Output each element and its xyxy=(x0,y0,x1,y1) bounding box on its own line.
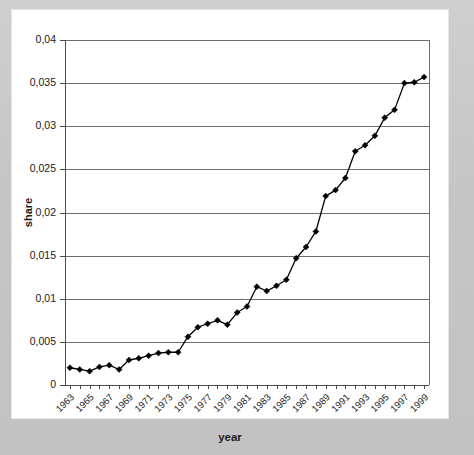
x-tick-label: 1981 xyxy=(231,391,254,414)
x-tick-label: 1967 xyxy=(93,391,116,414)
x-tick-label: 1995 xyxy=(368,391,391,414)
data-point-marker xyxy=(421,74,427,80)
data-point-marker xyxy=(214,317,220,323)
series-line-share xyxy=(70,77,424,371)
x-tick-label: 1979 xyxy=(211,391,234,414)
data-point-marker xyxy=(205,321,211,327)
x-tick-label: 1985 xyxy=(270,391,293,414)
x-tick-label: 1991 xyxy=(329,391,352,414)
y-tick-label: 0,015 xyxy=(30,249,56,261)
gridlines-group xyxy=(65,41,429,343)
data-point-marker xyxy=(283,277,289,283)
x-tick-label: 1969 xyxy=(112,391,135,414)
data-point-marker xyxy=(136,355,142,361)
line-chart: 00,0050,010,0150,020,0250,030,0350,04 19… xyxy=(12,10,448,418)
data-point-marker xyxy=(165,349,171,355)
data-point-marker xyxy=(254,284,260,290)
y-tick-label: 0 xyxy=(50,378,56,390)
x-tick-label: 1965 xyxy=(73,391,96,414)
x-axis-title-band: year xyxy=(12,418,448,455)
x-tick-label: 1971 xyxy=(132,391,155,414)
data-point-marker xyxy=(313,228,319,234)
markers-group xyxy=(67,74,427,374)
y-axis-title-group: share xyxy=(22,198,34,227)
data-point-marker xyxy=(155,350,161,356)
x-tick-labels-group: 1963196519671969197119731975197719791981… xyxy=(53,391,430,414)
data-point-marker xyxy=(106,362,112,368)
data-point-marker xyxy=(77,366,83,372)
y-tick-label: 0,02 xyxy=(36,206,57,218)
x-tick-label: 1963 xyxy=(53,391,76,414)
y-tick-label: 0,04 xyxy=(36,33,57,45)
data-point-marker xyxy=(87,368,93,374)
x-tick-label: 1993 xyxy=(349,391,372,414)
series-group xyxy=(70,77,424,371)
axis-lines-group xyxy=(65,40,430,386)
data-point-marker xyxy=(146,353,152,359)
data-point-marker xyxy=(244,304,250,310)
x-tick-label: 1987 xyxy=(290,391,313,414)
data-point-marker xyxy=(274,283,280,289)
data-point-marker xyxy=(352,148,358,154)
x-tick-label: 1983 xyxy=(250,391,273,414)
data-point-marker xyxy=(96,364,102,370)
plot-stage: 00,0050,010,0150,020,0250,030,0350,04 19… xyxy=(12,10,448,418)
figure-root: 00,0050,010,0150,020,0250,030,0350,04 19… xyxy=(0,0,474,455)
data-point-marker xyxy=(323,193,329,199)
x-tick-label: 1989 xyxy=(309,391,332,414)
x-tick-label: 1997 xyxy=(388,391,411,414)
y-tick-label: 0,03 xyxy=(36,119,57,131)
x-tick-label: 1999 xyxy=(408,391,431,414)
y-tick-label: 0,025 xyxy=(30,162,56,174)
y-tick-marks-group xyxy=(60,41,65,386)
x-tick-label: 1973 xyxy=(152,391,175,414)
x-tick-label: 1977 xyxy=(191,391,214,414)
data-point-marker xyxy=(411,79,417,85)
data-point-marker xyxy=(175,349,181,355)
data-point-marker xyxy=(401,80,407,86)
y-tick-label: 0,035 xyxy=(30,76,56,88)
x-axis-title: year xyxy=(218,431,242,443)
x-tick-label: 1975 xyxy=(171,391,194,414)
data-point-marker xyxy=(67,365,73,371)
y-tick-label: 0,005 xyxy=(30,335,56,347)
data-point-marker xyxy=(264,288,270,294)
y-axis-title: share xyxy=(22,198,34,227)
y-tick-label: 0,01 xyxy=(36,292,57,304)
chart-panel: 00,0050,010,0150,020,0250,030,0350,04 19… xyxy=(12,10,448,418)
